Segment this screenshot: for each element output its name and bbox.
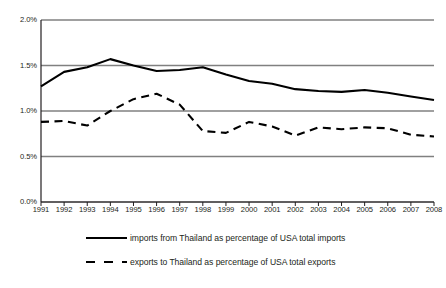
legend-item-exports: exports to Thailand as percentage of USA…: [86, 254, 335, 270]
chart-legend: imports from Thailand as percentage of U…: [0, 228, 446, 284]
series-lines: [41, 59, 434, 136]
series-line-exports: [41, 94, 434, 137]
legend-label-imports: imports from Thailand as percentage of U…: [130, 233, 345, 243]
legend-key-solid-line: [86, 231, 130, 245]
legend-key-dashed-line: [86, 255, 130, 269]
legend-label-exports: exports to Thailand as percentage of USA…: [130, 257, 335, 267]
legend-item-imports: imports from Thailand as percentage of U…: [86, 230, 345, 246]
gridlines: [41, 20, 434, 202]
chart-figure: 2.0% 1.5% 1.0% 0.5% 0.0% 199119921993199…: [0, 0, 446, 288]
